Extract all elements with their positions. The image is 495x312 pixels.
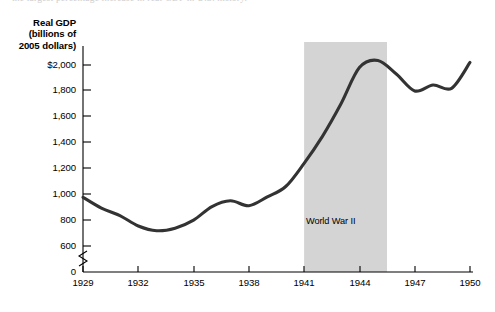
x-axis-ticks xyxy=(83,266,470,272)
x-tick-label-1950: 1950 xyxy=(440,278,495,288)
y-axis-break-symbol xyxy=(79,251,87,266)
y-axis-title-line-1: Real GDP xyxy=(0,17,76,28)
y-tick-label-1200: 1,200 xyxy=(0,163,76,173)
world-war-ii-shaded-band xyxy=(304,42,387,272)
x-tick-label-1938: 1938 xyxy=(219,278,279,288)
x-tick-label-1941: 1941 xyxy=(274,278,334,288)
x-tick-label-1944: 1944 xyxy=(330,278,390,288)
y-tick-label-600: 600 xyxy=(0,241,76,251)
real-gdp-line-chart-figure: the largest percentage increase in real … xyxy=(0,0,495,312)
y-tick-label-1400: 1,400 xyxy=(0,137,76,147)
y-axis-title: Real GDP (billions of 2005 dollars) xyxy=(0,17,76,51)
x-tick-label-1935: 1935 xyxy=(164,278,224,288)
y-tick-label-2000: $2,000 xyxy=(0,60,76,70)
y-axis-title-line-3: 2005 dollars) xyxy=(0,40,76,51)
x-tick-label-1929: 1929 xyxy=(53,278,113,288)
world-war-ii-annotation-label: World War II xyxy=(306,216,355,226)
x-tick-label-1947: 1947 xyxy=(385,278,445,288)
y-axis-title-line-2: (billions of xyxy=(0,28,76,39)
y-tick-label-0: 0 xyxy=(0,267,76,277)
y-tick-label-1600: 1,600 xyxy=(0,111,76,121)
y-tick-label-800: 800 xyxy=(0,215,76,225)
y-tick-label-1800: 1,800 xyxy=(0,85,76,95)
real-gdp-data-line xyxy=(83,60,470,231)
y-tick-label-1000: 1,000 xyxy=(0,189,76,199)
y-axis-ticks xyxy=(83,65,91,246)
x-tick-label-1932: 1932 xyxy=(108,278,168,288)
